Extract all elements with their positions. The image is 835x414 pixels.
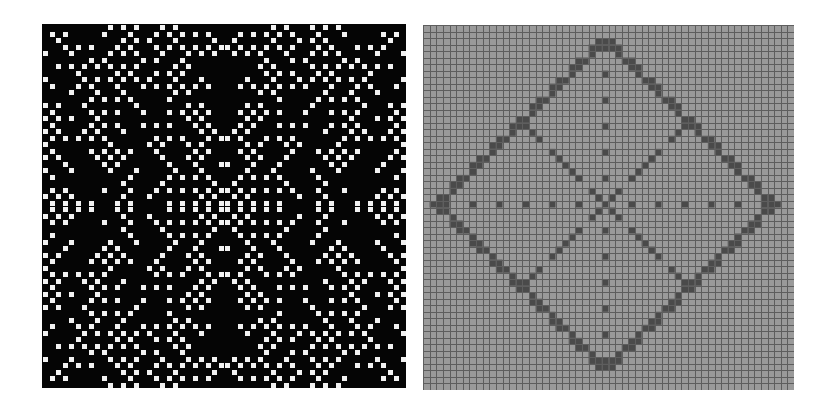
automaton-pattern-grid — [42, 24, 406, 388]
diamond-canvas — [423, 25, 794, 390]
automaton-canvas — [42, 24, 406, 388]
diamond-pattern-grid — [423, 25, 794, 390]
